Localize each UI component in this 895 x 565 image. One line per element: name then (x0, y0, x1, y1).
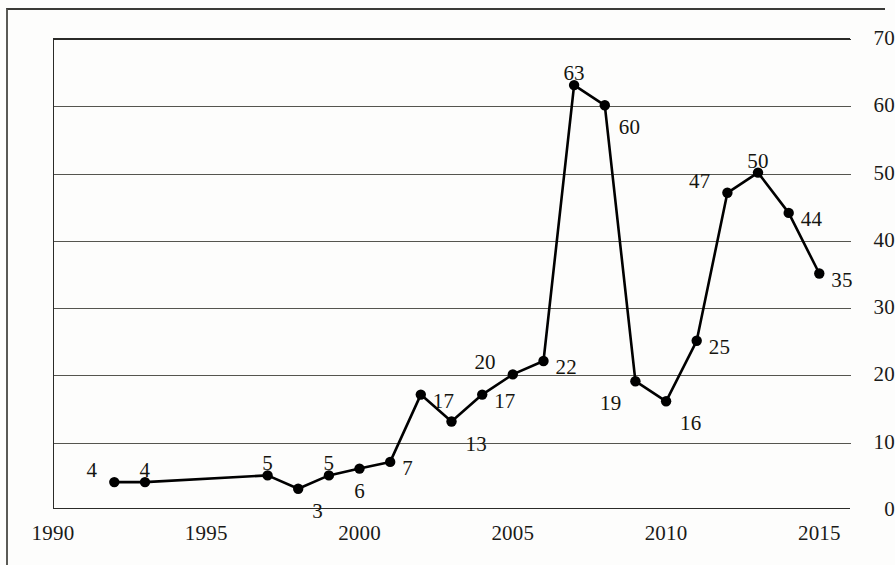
data-point-label: 17 (494, 389, 515, 414)
data-point-marker (416, 389, 426, 399)
data-point-marker (477, 389, 487, 399)
data-point-label: 19 (600, 391, 621, 416)
data-point-marker (814, 268, 824, 278)
data-point-label: 20 (474, 350, 495, 375)
data-point-label: 25 (709, 335, 730, 360)
data-point-label: 47 (689, 169, 710, 194)
data-point-label: 44 (801, 207, 822, 232)
series-line (114, 85, 819, 489)
data-point-marker (722, 188, 732, 198)
data-point-marker (354, 463, 364, 473)
data-point-label: 6 (354, 479, 365, 504)
data-point-label: 5 (324, 451, 335, 476)
data-point-label: 7 (402, 456, 413, 481)
data-point-label: 3 (312, 499, 323, 524)
data-point-label: 5 (262, 451, 273, 476)
data-point-marker (109, 477, 119, 487)
data-point-marker (600, 100, 610, 110)
data-point-label: 22 (555, 355, 576, 380)
data-point-marker (508, 369, 518, 379)
data-series (0, 0, 895, 565)
data-point-marker (385, 457, 395, 467)
data-point-label: 4 (140, 458, 151, 483)
data-point-marker (538, 356, 548, 366)
data-point-marker (446, 416, 456, 426)
data-point-marker (661, 396, 671, 406)
data-point-label: 63 (563, 61, 584, 86)
data-point-label: 60 (619, 115, 640, 140)
data-point-marker (784, 208, 794, 218)
chart-figure: 010203040506070 199019952000200520102015… (0, 0, 895, 565)
data-point-marker (630, 376, 640, 386)
data-point-label: 13 (466, 432, 487, 457)
data-point-label: 17 (433, 389, 454, 414)
data-point-label: 50 (747, 149, 768, 174)
data-point-marker (293, 484, 303, 494)
data-point-label: 35 (831, 268, 852, 293)
data-point-label: 16 (680, 411, 701, 436)
data-point-label: 4 (87, 458, 98, 483)
data-point-marker (692, 336, 702, 346)
